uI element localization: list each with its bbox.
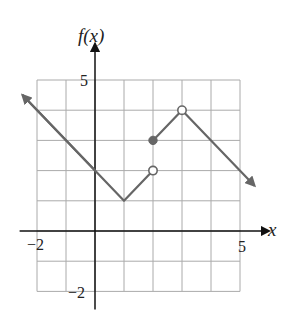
curve-segment-1 <box>23 95 154 201</box>
x-tick-label-max: 5 <box>238 239 246 255</box>
y-tick-label-min: −2 <box>68 285 85 301</box>
left-arrow <box>23 95 96 171</box>
curve-segment-2 <box>153 110 255 186</box>
y-tick-label-max: 5 <box>80 73 88 89</box>
closed-point <box>149 136 157 144</box>
open-point <box>178 106 186 114</box>
y-axis-label: f(x) <box>78 26 104 45</box>
function-curve <box>23 95 255 201</box>
function-graph <box>0 0 305 333</box>
open-point <box>149 166 157 174</box>
axes <box>20 44 269 310</box>
x-tick-label-min: −2 <box>27 237 44 253</box>
x-axis-label: x <box>268 220 276 239</box>
